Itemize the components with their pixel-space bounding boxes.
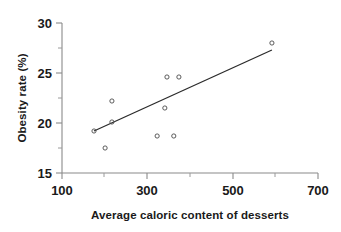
x-axis-minor-ticks <box>104 173 275 177</box>
data-point <box>155 134 159 138</box>
x-tick-label-300: 300 <box>136 183 158 198</box>
data-point <box>103 146 107 150</box>
y-axis-title: Obesity rate (%) <box>16 53 28 142</box>
data-point-group <box>92 41 274 150</box>
data-point <box>163 106 167 110</box>
y-axis-minor-ticks <box>58 48 62 148</box>
y-tick-label-15: 15 <box>38 166 52 181</box>
x-tick-label-500: 500 <box>222 183 244 198</box>
data-point <box>270 41 274 45</box>
data-point <box>172 134 176 138</box>
data-point <box>110 99 114 103</box>
data-point <box>177 75 181 79</box>
scatter-plot-figure: 30 25 20 15 100 300 500 700 Average calo… <box>0 0 341 232</box>
y-tick-label-25: 25 <box>38 66 52 81</box>
y-tick-label-20: 20 <box>38 116 52 131</box>
chart-canvas: 30 25 20 15 100 300 500 700 Average calo… <box>0 0 341 232</box>
trend-line <box>94 50 272 131</box>
x-axis-title: Average caloric content of desserts <box>91 209 289 221</box>
y-tick-label-30: 30 <box>38 16 52 31</box>
x-tick-label-100: 100 <box>51 183 73 198</box>
x-tick-label-700: 700 <box>307 183 329 198</box>
data-point <box>165 75 169 79</box>
